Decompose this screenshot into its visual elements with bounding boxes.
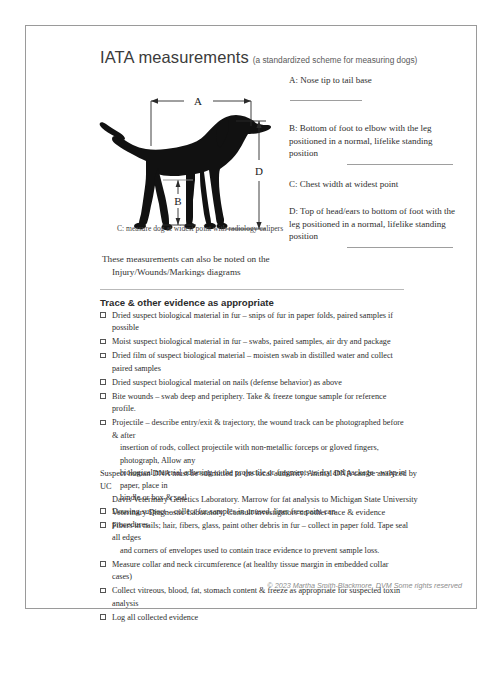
checkbox-icon[interactable] <box>100 420 106 426</box>
checklist-item-line: Dried film of suspect biological materia… <box>112 351 393 372</box>
checkbox-icon[interactable] <box>100 379 106 385</box>
measurement-d-text: D: Top of head/ears to bottom of foot wi… <box>289 205 455 243</box>
measurement-d-blank-line[interactable] <box>347 246 453 248</box>
measurement-item-a: A: Nose tip to tail base <box>289 74 455 105</box>
checklist-item[interactable]: Moist suspect biological material in fur… <box>100 336 410 348</box>
diagram-note-line-2: Injury/Wounds/Markings diagrams <box>102 266 302 279</box>
checklist-item-line: Bite wounds – swab deep and periphery. T… <box>112 392 386 413</box>
dog-measurement-diagram: A D <box>96 88 286 238</box>
checklist-item-line: insertion of rods, collect projectile wi… <box>112 442 410 467</box>
diagram-caption: C: measure dog at widest point with radi… <box>100 224 300 233</box>
checklist-item[interactable]: Dried suspect biological material in fur… <box>100 310 410 335</box>
measurement-item-d: D: Top of head/ears to bottom of foot wi… <box>289 205 455 248</box>
measurement-a-text: A: Nose tip to tail base <box>289 74 455 87</box>
page-subtitle: (a standardized scheme for measuring dog… <box>253 55 418 65</box>
measurement-b-blank-line[interactable] <box>347 163 453 165</box>
checklist-item[interactable]: Log all collected evidence <box>100 612 410 624</box>
checklist-item-line: Projectile – describe entry/exit & traje… <box>112 418 404 439</box>
closing-line-1: Suspect human DNA must be submitted to t… <box>100 469 417 491</box>
checkbox-icon[interactable] <box>100 614 106 620</box>
checkbox-icon[interactable] <box>100 561 106 567</box>
measurement-item-b: B: Bottom of foot to elbow with the leg … <box>289 122 455 165</box>
checkbox-icon[interactable] <box>100 312 106 318</box>
dimension-a-label: A <box>194 95 202 107</box>
checklist-item-line: Dried suspect biological material in fur… <box>112 311 393 332</box>
checklist-item-line: Dried suspect biological material on nai… <box>112 378 342 387</box>
dog-silhouette-shape <box>100 115 271 230</box>
diagram-note: These measurements can also be noted on … <box>102 253 302 280</box>
checklist-item-line: and corners of envelopes used to contain… <box>112 545 410 557</box>
page-title: IATA measurements <box>100 48 249 66</box>
measurement-c-text: C: Chest width at widest point <box>289 178 455 191</box>
checkbox-icon[interactable] <box>100 353 106 359</box>
document-page: IATA measurements(a standardized scheme … <box>25 25 477 609</box>
dimension-d-label: D <box>255 165 263 177</box>
closing-paragraph: Suspect human DNA must be submitted to t… <box>100 468 418 532</box>
copyright-footer: © 2023 Martha Smith-Blackmore, DVM Some … <box>26 581 462 590</box>
trace-section-heading: Trace & other evidence as appropriate <box>100 297 274 308</box>
closing-line-3: Veterinary Diagnostic Laboratory. Consul… <box>100 507 418 533</box>
measurement-b-text: B: Bottom of foot to elbow with the leg … <box>289 122 455 160</box>
page-header: IATA measurements(a standardized scheme … <box>100 48 417 67</box>
dimension-b-label: B <box>174 195 181 207</box>
checkbox-icon[interactable] <box>100 339 106 345</box>
measurement-descriptions: A: Nose tip to tail base B: Bottom of fo… <box>289 74 455 256</box>
checklist-item-line: Log all collected evidence <box>112 613 198 622</box>
checklist-item-line: Moist suspect biological material in fur… <box>112 337 391 346</box>
section-divider <box>100 289 404 290</box>
closing-line-2: Davis Veterinary Genetics Laboratory. Ma… <box>100 494 418 507</box>
checklist-item[interactable]: Bite wounds – swab deep and periphery. T… <box>100 391 410 416</box>
checkbox-icon[interactable] <box>100 393 106 399</box>
diagram-note-line-1: These measurements can also be noted on … <box>102 254 270 264</box>
checklist-item[interactable]: Dried film of suspect biological materia… <box>100 350 410 375</box>
checklist-item[interactable]: Dried suspect biological material on nai… <box>100 377 410 389</box>
measurement-item-c: C: Chest width at widest point <box>289 178 455 191</box>
checklist-item-line: Measure collar and neck circumference (a… <box>112 560 389 581</box>
measurement-a-blank-line[interactable] <box>290 99 362 101</box>
